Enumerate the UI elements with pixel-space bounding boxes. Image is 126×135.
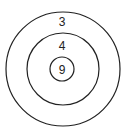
outer-ring-label: 3 — [59, 15, 66, 29]
inner-circle-label: 9 — [59, 63, 66, 77]
concentric-circles-diagram: 3 4 9 — [0, 0, 126, 135]
middle-ring-label: 4 — [59, 39, 66, 53]
